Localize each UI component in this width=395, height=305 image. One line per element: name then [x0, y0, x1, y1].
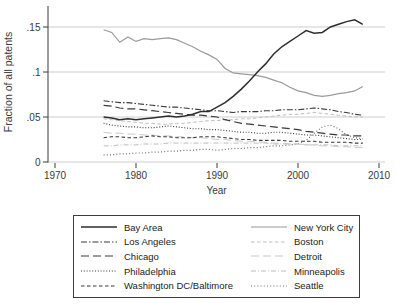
legend-line-sample [250, 266, 288, 276]
series-line-chicago [104, 105, 363, 136]
y-tick-label: .05 [27, 112, 41, 123]
legend: Bay AreaLos AngelesChicagoPhiladelphiaWa… [73, 215, 360, 298]
legend-item-los-angeles: Los Angeles [80, 236, 250, 247]
x-tick-label: 1990 [206, 170, 229, 181]
legend-label: Detroit [294, 251, 322, 262]
legend-item-chicago: Chicago [80, 251, 250, 262]
x-axis-title: Year [166, 185, 267, 196]
series-line-washington-dc-baltimore [104, 136, 363, 143]
legend-line-sample [250, 237, 288, 247]
legend-line-sample [250, 281, 288, 291]
legend-label: Minneapolis [294, 266, 345, 277]
legend-line-sample [250, 251, 288, 261]
x-tick-label: 1980 [125, 170, 148, 181]
legend-label: Bay Area [124, 222, 163, 233]
legend-line-sample [80, 251, 118, 261]
legend-label: Los Angeles [124, 236, 176, 247]
legend-item-new-york-city: New York City [250, 222, 357, 233]
legend-item-seattle: Seattle [250, 280, 357, 291]
y-tick-label: .1 [32, 67, 41, 78]
series-line-los-angeles [104, 101, 363, 115]
legend-line-sample [80, 281, 118, 291]
legend-line-sample [80, 266, 118, 276]
legend-line-sample [80, 237, 118, 247]
legend-line-sample [250, 222, 288, 232]
series-line-detroit [104, 132, 363, 147]
legend-item-boston: Boston [250, 236, 357, 247]
legend-item-philadelphia: Philadelphia [80, 266, 250, 277]
y-tick-label: 0 [35, 157, 41, 168]
legend-label: Chicago [124, 251, 159, 262]
y-axis-title: Fraction of all patents [2, 0, 14, 182]
series-line-seattle [104, 125, 363, 155]
legend-line-sample [80, 222, 118, 232]
x-tick-label: 2010 [368, 170, 391, 181]
legend-label: Philadelphia [124, 266, 176, 277]
series-line-new-york-city [104, 30, 363, 97]
legend-item-bay-area: Bay Area [80, 222, 250, 233]
patent-share-chart: 0.05.1.1519701980199020002010 [0, 0, 395, 205]
legend-label: New York City [294, 222, 353, 233]
legend-label: Seattle [294, 280, 324, 291]
legend-item-washington-dc-baltimore: Washington DC/Baltimore [80, 280, 250, 291]
legend-grid: Bay AreaLos AngelesChicagoPhiladelphiaWa… [74, 216, 359, 297]
legend-item-detroit: Detroit [250, 251, 357, 262]
legend-item-minneapolis: Minneapolis [250, 266, 357, 277]
y-tick-label: .15 [27, 22, 41, 33]
x-tick-label: 2000 [287, 170, 310, 181]
legend-label: Boston [294, 236, 324, 247]
patent-share-figure: 0.05.1.1519701980199020002010 Fraction o… [0, 0, 395, 305]
x-tick-label: 1970 [44, 170, 67, 181]
legend-label: Washington DC/Baltimore [124, 280, 233, 291]
